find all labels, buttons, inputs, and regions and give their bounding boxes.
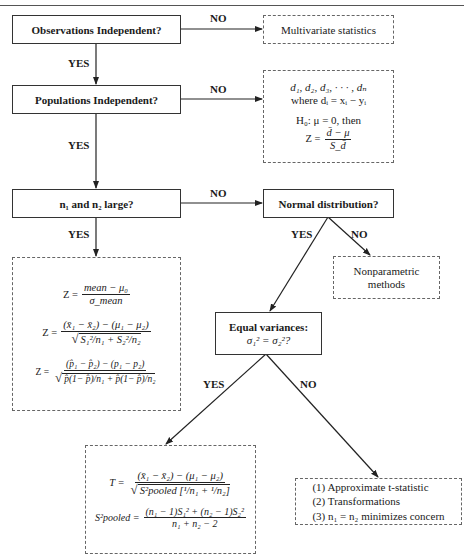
formula-lhs: Z =: [306, 133, 321, 145]
edge-label-pop-no: NO: [210, 83, 227, 95]
differences-definition: where dᵢ = xᵢ − yᵢ: [291, 94, 366, 107]
node-label-line1: Nonparametric: [354, 265, 420, 278]
multivariate-statistics-node: Multivariate statistics: [263, 15, 394, 44]
option-item: (2) Transformations: [312, 494, 444, 508]
formula-lhs: S²pooled =: [95, 512, 139, 524]
edge-label-var-no: NO: [300, 378, 317, 390]
formula-numerator: (p̂₁ − p̂₂) − (p₁ − p₂): [64, 359, 146, 371]
node-label: Populations Independent?: [35, 94, 158, 106]
option-item: (3) n₁ = n₂ minimizes concern: [312, 509, 444, 523]
node-label: Multivariate statistics: [281, 24, 376, 36]
nonparametric-methods-node: Nonparametric methods: [333, 256, 440, 299]
formula-lhs: T =: [109, 477, 124, 489]
edge-label-normal-no: NO: [351, 228, 368, 240]
node-label: Normal distribution?: [279, 198, 379, 210]
z-formulas-node: Z = mean − μ₀σ_mean Z = (x̄₁ − x̄₂) − (μ…: [12, 257, 181, 411]
node-label-line1: Equal variances:: [229, 321, 308, 334]
pooled-variance-formula: S²pooled = (n₁ − 1)S₁² + (n₂ − 1)S₂²n₁ +…: [95, 506, 246, 530]
formula-denominator: S₁²/n₁ + S₂²/n₂: [79, 333, 141, 345]
edge-label-obs-no: NO: [210, 12, 227, 24]
option-item: (1) Approximate t-statistic: [312, 480, 444, 494]
formula-lhs: Z =: [63, 289, 78, 301]
formula-denominator: S_d̄: [328, 140, 348, 152]
formula-lhs: Z =: [36, 367, 50, 378]
formula-lhs: Z =: [42, 327, 57, 339]
z-mean-formula: Z = mean − μ₀σ_mean: [63, 282, 130, 307]
node-label: n₁ and n₂ large?: [59, 198, 133, 210]
pooled-t-formulas-node: T = (x̄₁ − x̄₂) − (μ₁ − μ₂)√S²pooled [¹/…: [85, 445, 256, 554]
z-proportions-formula: Z = (p̂₁ − p̂₂) − (p₁ − p₂)√p̂(1− p̂)/n₁…: [36, 359, 158, 386]
formula-numerator: mean − μ₀: [82, 282, 130, 295]
edge-label-obs-yes: YES: [68, 57, 89, 69]
formula-denominator: S²pooled [¹/n₁ + ¹/n₂]: [138, 484, 230, 496]
node-label-line2: methods: [368, 278, 405, 291]
populations-independent-node: Populations Independent?: [12, 85, 181, 114]
edge-label-large-no: NO: [210, 187, 227, 199]
equal-variances-node: Equal variances: σ₁² = σ₂²?: [215, 312, 322, 355]
formula-denominator: p̂(1− p̂)/n₁ + p̂(1− p̂)/n₂: [62, 373, 155, 384]
t-statistic-formula: T = (x̄₁ − x̄₂) − (μ₁ − μ₂)√S²pooled [¹/…: [109, 470, 232, 498]
paired-z-formula: Z = d̄ − μS_d̄: [306, 127, 352, 152]
null-hypothesis: H₀: μ = 0, then: [296, 114, 361, 127]
node-label-line2: σ₁² = σ₂²?: [247, 334, 291, 347]
differences-list: d₁, d₂, d₃, · · · , dₙ: [290, 81, 366, 94]
large-samples-node: n₁ and n₂ large?: [12, 189, 181, 218]
node-label: Observations Independent?: [32, 24, 162, 36]
edge-label-large-yes: YES: [68, 228, 89, 240]
formula-numerator: (x̄₁ − x̄₂) − (μ₁ − μ₂): [135, 470, 224, 483]
edge-label-var-yes: YES: [203, 378, 224, 390]
unequal-variance-options-node: (1) Approximate t-statistic (2) Transfor…: [295, 478, 462, 525]
z-two-means-formula: Z = (x̄₁ − x̄₂) − (μ₁ − μ₂)√S₁²/n₁ + S₂²…: [42, 319, 150, 347]
normal-distribution-node: Normal distribution?: [263, 189, 394, 218]
edge-label-normal-yes: YES: [291, 228, 312, 240]
edge-label-pop-yes: YES: [68, 139, 89, 151]
formula-denominator: σ_mean: [87, 295, 124, 307]
paired-differences-node: d₁, d₂, d₃, · · · , dₙ where dᵢ = xᵢ − y…: [263, 70, 394, 163]
formula-numerator: (n₁ − 1)S₁² + (n₂ − 1)S₂²: [144, 506, 246, 519]
formula-numerator: d̄ − μ: [325, 127, 352, 140]
observations-independent-node: Observations Independent?: [12, 15, 181, 44]
formula-denominator: n₁ + n₂ − 2: [170, 518, 219, 530]
